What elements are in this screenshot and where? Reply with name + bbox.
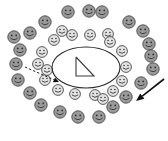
face-head: [137, 25, 149, 37]
face-eye-right: [144, 29, 146, 31]
smiley-face-icon: [53, 85, 64, 96]
face-eye-right: [59, 88, 61, 90]
face-eye-left: [138, 81, 140, 83]
face-head: [147, 63, 159, 75]
face-eye-left: [148, 54, 150, 56]
face-head: [117, 46, 128, 57]
smiley-face-icon: [10, 58, 22, 70]
smiley-face-icon: [93, 111, 105, 123]
face-head: [96, 6, 108, 18]
diagram-svg: [0, 0, 168, 141]
face-head: [53, 85, 64, 96]
face-head: [12, 74, 24, 86]
face-eye-left: [150, 67, 152, 69]
smiley-face-icon: [24, 87, 36, 99]
face-head: [57, 26, 68, 37]
face-eye-left: [87, 33, 89, 35]
face-eye-right: [61, 110, 63, 112]
smiley-face-icon: [85, 30, 96, 41]
face-eye-left: [69, 33, 71, 35]
face-eye-right: [19, 78, 21, 80]
face-eye-left: [65, 10, 67, 12]
face-eye-right: [103, 10, 105, 12]
face-eye-left: [123, 95, 125, 97]
face-head: [35, 99, 47, 111]
face-eye-right: [114, 105, 116, 107]
face-eye-right: [127, 95, 129, 97]
face-eye-left: [105, 32, 107, 34]
face-eye-left: [44, 68, 46, 70]
face-eye-right: [150, 42, 152, 44]
face-head: [105, 37, 116, 48]
smiley-face-icon: [70, 89, 81, 100]
face-eye-right: [76, 92, 78, 94]
smiley-face-icon: [12, 74, 24, 86]
smiley-face-icon: [8, 31, 20, 43]
face-eye-left: [38, 103, 40, 105]
face-eye-left: [39, 50, 41, 52]
face-eye-right: [55, 38, 57, 40]
face-eye-left: [72, 92, 74, 94]
smiley-face-icon: [145, 50, 157, 62]
face-head: [72, 111, 84, 123]
face-eye-left: [59, 29, 61, 31]
face-eye-right: [96, 93, 98, 95]
face-eye-left: [42, 78, 44, 80]
face-eye-left: [55, 88, 57, 90]
face-head: [24, 27, 36, 39]
face-head: [145, 50, 157, 62]
face-head: [54, 106, 66, 118]
face-head: [143, 38, 155, 50]
smiley-face-icon: [147, 63, 159, 75]
face-head: [120, 91, 132, 103]
face-eye-right: [73, 33, 75, 35]
face-eye-right: [152, 54, 154, 56]
face-head: [98, 94, 109, 105]
face-eye-right: [123, 79, 125, 81]
face-head: [121, 62, 132, 73]
smiley-face-icon: [120, 91, 132, 103]
smiley-face-icon: [35, 99, 47, 111]
face-head: [10, 58, 22, 70]
face-eye-right: [111, 40, 113, 42]
face-eye-left: [110, 105, 112, 107]
smiley-face-icon: [14, 44, 26, 56]
face-eye-left: [57, 110, 59, 112]
smiley-face-icon: [37, 47, 48, 58]
face-head: [14, 44, 26, 56]
face-eye-right: [79, 115, 81, 117]
smiley-face-icon: [67, 30, 78, 41]
smiley-face-icon: [96, 6, 108, 18]
face-eye-left: [15, 78, 17, 80]
face-head: [39, 16, 51, 28]
face-eye-right: [127, 65, 129, 67]
face-eye-left: [17, 48, 19, 50]
face-eye-right: [39, 62, 41, 64]
smiley-face-icon: [117, 46, 128, 57]
face-head: [49, 35, 60, 46]
smiley-face-icon: [57, 26, 68, 37]
diagram-canvas: [0, 0, 168, 141]
face-head: [123, 16, 135, 28]
face-head: [42, 65, 53, 76]
face-eye-right: [48, 68, 50, 70]
face-eye-right: [142, 81, 144, 83]
face-eye-right: [31, 91, 33, 93]
face-eye-left: [110, 89, 112, 91]
face-eye-right: [42, 103, 44, 105]
face-eye-right: [109, 32, 111, 34]
face-eye-left: [119, 49, 121, 51]
smiley-face-icon: [137, 25, 149, 37]
smiley-face-icon: [83, 5, 95, 17]
face-eye-right: [31, 31, 33, 33]
face-head: [93, 111, 105, 123]
smiley-face-icon: [49, 35, 60, 46]
face-eye-left: [42, 20, 44, 22]
smiley-face-icon: [108, 86, 119, 97]
face-head: [62, 6, 74, 18]
face-head: [107, 101, 119, 113]
face-head: [135, 77, 147, 89]
face-eye-right: [123, 49, 125, 51]
smiley-face-icon: [54, 106, 66, 118]
face-eye-left: [11, 35, 13, 37]
